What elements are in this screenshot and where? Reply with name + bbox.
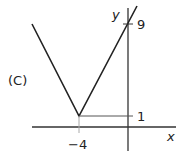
graph: y 9 1 x −4 (C) [0, 0, 179, 159]
y-axis-label: y [111, 7, 120, 22]
v-graph-line [32, 6, 137, 116]
tick-label-neg4: −4 [68, 137, 87, 152]
x-axis-label: x [166, 129, 175, 144]
tick-label-1: 1 [137, 109, 145, 124]
tick-label-9: 9 [137, 17, 145, 32]
panel-label: (C) [8, 73, 27, 88]
